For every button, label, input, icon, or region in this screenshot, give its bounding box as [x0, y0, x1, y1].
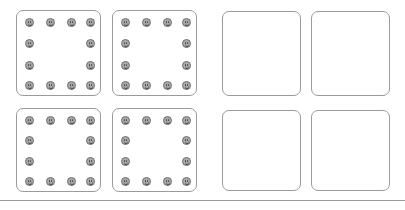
face-smile-icon	[166, 121, 170, 124]
face-smile-icon	[185, 86, 189, 89]
smiley-face-icon	[121, 116, 130, 125]
face-smile-icon	[49, 23, 53, 26]
face-smile-icon	[89, 44, 93, 47]
smiley-face-icon	[86, 61, 95, 70]
face-smile-icon	[28, 141, 32, 144]
smiley-face-icon	[142, 116, 151, 125]
smiley-face-icon	[163, 177, 172, 186]
face-smile-icon	[70, 182, 74, 185]
smiley-face-icon	[121, 177, 130, 186]
smiley-face-icon	[46, 116, 55, 125]
smiley-face-icon	[25, 177, 34, 186]
smiley-face-icon	[163, 18, 172, 27]
face-smile-icon	[70, 121, 74, 124]
smiley-face-icon	[46, 18, 55, 27]
smiley-face-icon	[121, 81, 130, 90]
face-smile-icon	[185, 141, 189, 144]
face-smile-icon	[89, 162, 93, 165]
smiley-face-icon	[67, 18, 76, 27]
empty-panel[interactable]	[222, 110, 301, 191]
face-smile-icon	[124, 86, 128, 89]
smiley-face-icon	[67, 177, 76, 186]
face-smile-icon	[28, 182, 32, 185]
smiley-face-icon	[86, 81, 95, 90]
face-smile-icon	[28, 121, 32, 124]
face-smile-icon	[28, 162, 32, 165]
smiley-face-icon	[142, 81, 151, 90]
face-smile-icon	[145, 23, 149, 26]
smiley-face-icon	[25, 61, 34, 70]
smiley-face-icon	[25, 39, 34, 48]
empty-panel[interactable]	[311, 11, 390, 96]
smiley-face-icon	[67, 81, 76, 90]
face-smile-icon	[89, 66, 93, 69]
smiley-face-icon	[182, 61, 191, 70]
smiley-face-icon	[182, 39, 191, 48]
smiley-face-icon	[86, 18, 95, 27]
face-smile-icon	[89, 121, 93, 124]
smiley-face-icon	[182, 157, 191, 166]
face-smile-icon	[124, 121, 128, 124]
face-smile-icon	[89, 141, 93, 144]
face-smile-icon	[145, 86, 149, 89]
smiley-face-icon	[182, 81, 191, 90]
face-smile-icon	[49, 182, 53, 185]
face-smile-icon	[145, 182, 149, 185]
face-smile-icon	[49, 121, 53, 124]
smiley-face-icon	[142, 177, 151, 186]
face-panel[interactable]	[16, 108, 101, 192]
face-smile-icon	[89, 23, 93, 26]
empty-panel[interactable]	[311, 110, 390, 191]
face-smile-icon	[28, 86, 32, 89]
face-smile-icon	[124, 182, 128, 185]
smiley-face-icon	[25, 136, 34, 145]
face-smile-icon	[185, 162, 189, 165]
face-panel[interactable]	[16, 10, 101, 96]
face-smile-icon	[124, 44, 128, 47]
smiley-face-icon	[25, 81, 34, 90]
face-smile-icon	[124, 162, 128, 165]
smiley-face-icon	[67, 116, 76, 125]
face-smile-icon	[28, 23, 32, 26]
face-panel[interactable]	[112, 108, 197, 192]
face-smile-icon	[185, 121, 189, 124]
face-smile-icon	[145, 121, 149, 124]
smiley-face-icon	[86, 39, 95, 48]
smiley-face-icon	[121, 157, 130, 166]
smiley-face-icon	[25, 116, 34, 125]
face-smile-icon	[124, 66, 128, 69]
smiley-face-icon	[182, 116, 191, 125]
smiley-face-icon	[46, 177, 55, 186]
face-smile-icon	[185, 182, 189, 185]
face-smile-icon	[124, 141, 128, 144]
smiley-face-icon	[25, 157, 34, 166]
smiley-face-icon	[121, 39, 130, 48]
face-panel[interactable]	[112, 10, 197, 96]
smiley-face-icon	[25, 18, 34, 27]
face-smile-icon	[28, 44, 32, 47]
smiley-face-icon	[182, 136, 191, 145]
face-smile-icon	[70, 86, 74, 89]
face-smile-icon	[166, 86, 170, 89]
face-smile-icon	[49, 86, 53, 89]
bottom-divider	[0, 200, 405, 201]
face-smile-icon	[70, 23, 74, 26]
smiley-face-icon	[121, 136, 130, 145]
empty-panel[interactable]	[222, 11, 301, 96]
smiley-face-icon	[182, 177, 191, 186]
face-smile-icon	[166, 182, 170, 185]
smiley-face-icon	[121, 61, 130, 70]
face-smile-icon	[89, 182, 93, 185]
smiley-face-icon	[182, 18, 191, 27]
face-smile-icon	[166, 23, 170, 26]
smiley-face-icon	[163, 81, 172, 90]
smiley-face-icon	[163, 116, 172, 125]
smiley-face-icon	[86, 136, 95, 145]
face-smile-icon	[185, 44, 189, 47]
smiley-face-icon	[86, 116, 95, 125]
face-smile-icon	[89, 86, 93, 89]
smiley-face-icon	[86, 177, 95, 186]
smiley-face-icon	[46, 81, 55, 90]
face-smile-icon	[185, 66, 189, 69]
face-smile-icon	[28, 66, 32, 69]
